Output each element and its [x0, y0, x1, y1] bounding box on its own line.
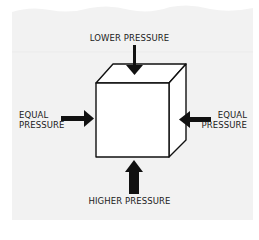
label-lower-pressure: LOWER PRESSURE: [0, 33, 259, 43]
label-higher-pressure: HIGHER PRESSURE: [0, 196, 259, 206]
label-line: EQUAL: [202, 110, 248, 120]
label-line: PRESSURE: [202, 120, 248, 130]
label-line: PRESSURE: [19, 120, 65, 130]
cube: [96, 64, 186, 157]
label-line: EQUAL: [19, 110, 65, 120]
cube-front-face: [96, 83, 169, 157]
label-equal-pressure-right: EQUAL PRESSURE: [202, 110, 248, 130]
label-equal-pressure-left: EQUAL PRESSURE: [19, 110, 65, 130]
